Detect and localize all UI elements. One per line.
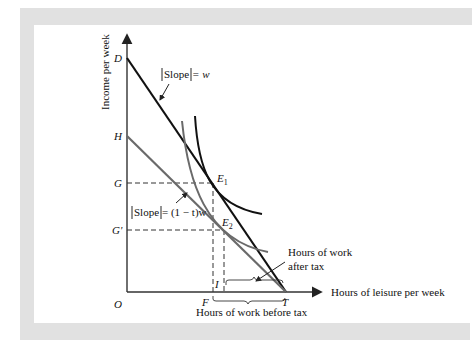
slope-w-arrow — [160, 84, 169, 100]
labor-supply-diagram: Income per week Hours of leisure per wee… — [0, 0, 472, 353]
label-E1: E1 — [216, 172, 228, 187]
work-after-tax-label-line1: Hours of work — [288, 246, 353, 258]
svg-text:= w: = w — [192, 68, 210, 80]
slope-w-annotation: Slope = w — [162, 68, 210, 81]
brace-work-before-tax — [213, 296, 285, 304]
work-after-tax-label-line2: after tax — [288, 260, 325, 272]
work-before-tax-label: Hours of work before tax — [196, 306, 308, 318]
label-G-prime: G' — [112, 224, 123, 236]
label-H: H — [113, 130, 123, 142]
indifference-curve-high — [195, 116, 262, 214]
slope-post-tax-annotation: Slope = (1 − t)w — [132, 206, 207, 219]
y-axis-label: Income per week — [99, 34, 111, 110]
svg-text:Slope: Slope — [134, 206, 159, 218]
x-axis-label: Hours of leisure per week — [331, 286, 445, 298]
slope-1-t-w-arrow — [176, 193, 187, 203]
label-G: G — [114, 177, 122, 189]
dashed-guides — [127, 183, 224, 292]
svg-text:= (1 − t)w: = (1 − t)w — [162, 206, 207, 219]
origin-label: O — [114, 298, 122, 310]
label-I: I — [214, 278, 220, 290]
svg-text:Slope: Slope — [164, 68, 189, 80]
label-D: D — [113, 52, 122, 64]
